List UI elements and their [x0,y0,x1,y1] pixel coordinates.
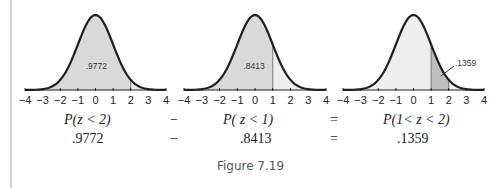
normal-curve-panel-2: −4−3−2−101234.8413 [178,15,329,106]
x-tick-label: −2 [372,94,385,106]
x-tick-label: 4 [481,94,487,106]
area-value-label: .1359 [455,58,477,68]
x-tick-label: 4 [323,94,329,106]
equation-equals-operator: = [330,112,338,128]
shaded-area [184,15,273,90]
equation-term-p-1-lt-z-lt-2: P(1< z < 2) [383,112,450,128]
area-value-label: .8413 [243,61,265,71]
figure-caption: Figure 7.19 [0,159,501,173]
x-tick-label: 0 [92,94,98,106]
x-tick-label: 3 [305,94,311,106]
x-tick-label: −4 [337,94,350,106]
x-tick-label: −1 [390,94,403,106]
equation-value-8413: .8413 [240,131,272,147]
x-tick-label: 2 [128,94,134,106]
normal-curve-panel-1: −4−3−2−101234.9772 [19,15,169,106]
x-tick-label: 1 [110,94,116,106]
x-tick-label: −1 [231,94,244,106]
equation-value-9772: .9772 [72,131,104,147]
equation-term-p-z-lt-1: P( z < 1) [223,112,273,128]
x-tick-label: −2 [54,94,67,106]
x-tick-label: −3 [195,94,208,106]
x-tick-label: −3 [36,94,49,106]
equation-equals-operator-2: = [330,131,338,147]
area-value-label: .9772 [86,61,108,71]
x-tick-label: −1 [72,94,85,106]
x-tick-label: 3 [463,94,469,106]
shaded-area [25,15,131,90]
equation-minus-operator: − [170,112,178,128]
x-tick-label: −4 [19,94,32,106]
x-tick-label: 3 [145,94,151,106]
x-tick-label: 1 [270,94,276,106]
equation-minus-operator-2: − [170,131,178,147]
x-tick-label: 4 [163,94,169,106]
x-tick-label: −3 [354,94,367,106]
x-tick-label: 0 [410,94,416,106]
normal-curve-panel-3: −4−3−2−101234.1359 [337,15,487,106]
equation-value-1359: .1359 [397,131,429,147]
x-tick-label: 1 [428,94,434,106]
curve-background-fill [343,15,484,90]
x-tick-label: 2 [446,94,452,106]
equation-term-p-z-lt-2: P(z < 2) [64,112,111,128]
x-tick-label: 2 [287,94,293,106]
x-tick-label: −2 [213,94,226,106]
x-tick-label: 0 [252,94,258,106]
x-tick-label: −4 [178,94,191,106]
